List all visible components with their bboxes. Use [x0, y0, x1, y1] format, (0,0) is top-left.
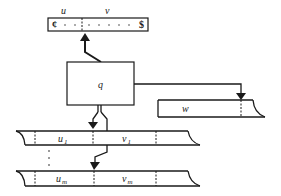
output-tape-label: w: [182, 103, 189, 114]
arrow-up-icon: [80, 33, 90, 41]
input-tape: u v ¢ $: [48, 5, 148, 31]
automaton-diagram: u v ¢ $ q w: [0, 0, 281, 196]
input-tape-label-u: u: [61, 5, 66, 16]
work-tape-1-right-label: v1: [122, 133, 131, 146]
finite-control: q: [67, 62, 134, 105]
arrow-down-icon: [88, 122, 98, 129]
work-tape-m-left-label: um: [56, 173, 67, 186]
state-label: q: [98, 79, 103, 90]
right-endmarker: $: [139, 19, 144, 30]
output-tape: w: [158, 100, 265, 117]
work-tape-1: u1 v1: [16, 131, 200, 146]
input-tape-label-v: v: [105, 5, 110, 16]
output-head-arrow: [134, 84, 246, 100]
ellipsis: [48, 150, 50, 166]
work-tape-m-right-label: vm: [122, 173, 133, 186]
input-tape-cell-strip: [48, 18, 148, 31]
arrow-down-icon: [236, 93, 246, 100]
left-endmarker: ¢: [52, 19, 57, 30]
work-tape-m: um vm: [16, 171, 200, 186]
work-tape-1-left-label: u1: [58, 133, 68, 146]
input-head-arrow: [80, 33, 101, 62]
arrow-down-icon: [90, 162, 100, 170]
work-head-arrows: [88, 105, 107, 170]
